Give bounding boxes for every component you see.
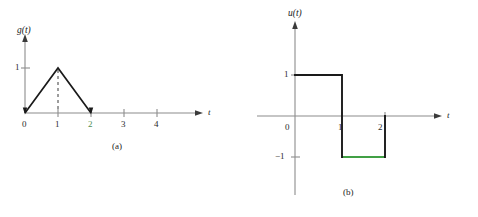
panel-a: g(t) t 1 0 1 2 3 4 (a) <box>0 0 239 217</box>
panel-b-caption: (b) <box>343 188 354 197</box>
panel-a-x-axis <box>25 110 203 116</box>
panel-b-x-axis-label: t <box>447 111 450 120</box>
panel-b-x-tick-label-2: 2 <box>378 123 383 132</box>
panel-a-plot <box>0 0 239 217</box>
panel-b-x-axis <box>257 113 442 119</box>
panel-a-caption: (a) <box>112 142 122 151</box>
figure-root: g(t) t 1 0 1 2 3 4 (a) <box>0 0 478 217</box>
panel-b-y-axis-label: u(t) <box>288 9 302 19</box>
panel-a-y-axis-label: g(t) <box>17 26 31 36</box>
panel-a-x-tick-label-0: 0 <box>22 120 27 129</box>
panel-a-x-tick-label-2: 2 <box>88 120 93 129</box>
panel-a-x-tick-label-3: 3 <box>121 120 126 129</box>
panel-a-x-tick-label-4: 4 <box>154 120 159 129</box>
panel-a-x-axis-label: t <box>208 108 211 117</box>
panel-a-x-tick-label-1: 1 <box>55 120 60 129</box>
panel-a-y-tick-label-1: 1 <box>15 63 20 72</box>
panel-b-x-tick-label-1: 1 <box>338 123 343 132</box>
panel-b: u(t) t 1 −1 0 1 2 (b) <box>239 0 478 217</box>
panel-b-plot <box>239 0 478 217</box>
panel-b-y-axis <box>292 21 298 195</box>
panel-b-y-tick-label-1: 1 <box>284 70 289 79</box>
panel-b-x-tick-label-0: 0 <box>285 123 290 132</box>
panel-b-y-tick-label-neg1: −1 <box>275 152 285 161</box>
panel-a-y-axis <box>22 34 28 113</box>
